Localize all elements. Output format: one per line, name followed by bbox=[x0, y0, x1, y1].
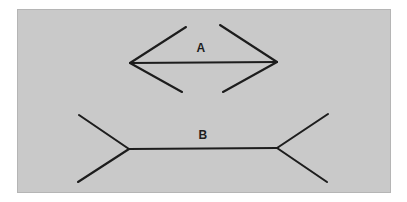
fin-a-bottom-right bbox=[223, 62, 277, 92]
figure-a-group bbox=[130, 25, 277, 92]
illusion-panel: A B bbox=[17, 9, 391, 193]
fin-b-bottom-right bbox=[277, 148, 327, 182]
fin-b-bottom-left bbox=[78, 149, 129, 182]
shaft-b bbox=[129, 148, 277, 149]
fin-a-top-left bbox=[130, 27, 186, 63]
figure-b-label: B bbox=[199, 129, 208, 141]
fin-b-top-left bbox=[79, 115, 129, 149]
fin-a-top-right bbox=[220, 25, 277, 62]
fin-b-top-right bbox=[277, 114, 328, 148]
figure-b-group bbox=[78, 114, 328, 182]
shaft-a bbox=[130, 62, 277, 63]
illusion-drawing bbox=[18, 10, 391, 193]
muller-lyer-figure: A B bbox=[0, 0, 407, 202]
fin-a-bottom-left bbox=[130, 63, 182, 92]
figure-a-label: A bbox=[197, 42, 206, 54]
